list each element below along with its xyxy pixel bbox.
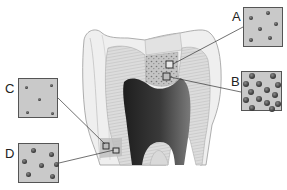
tubule-dot <box>249 38 253 42</box>
tubule-dot <box>38 98 41 101</box>
inset-A <box>243 7 283 47</box>
tubule-dot <box>275 101 281 107</box>
tubule-dot <box>249 73 255 79</box>
target-square-B <box>163 73 170 80</box>
tubule-dot <box>258 27 262 31</box>
tubule-dot <box>256 81 262 87</box>
tubule-dot <box>275 82 281 88</box>
tubule-dot <box>272 92 278 98</box>
tubule-dot <box>243 97 249 103</box>
label-D: D <box>5 147 14 160</box>
tubule-dot <box>26 172 31 177</box>
tubule-dot <box>49 152 54 157</box>
speckled-dentin-region <box>146 52 178 86</box>
label-A: A <box>232 10 241 23</box>
target-square-D <box>113 148 119 153</box>
tubule-dot <box>243 81 249 87</box>
tubule-dot <box>249 105 255 111</box>
label-C: C <box>5 82 14 95</box>
tubule-dot <box>50 174 55 179</box>
inset-D <box>18 143 59 183</box>
tubule-dot <box>264 100 270 106</box>
tubule-dot <box>22 159 27 164</box>
tubule-dot <box>274 22 278 26</box>
target-square-C <box>103 143 109 149</box>
tubule-dot <box>248 89 254 95</box>
tubule-dot <box>266 11 270 15</box>
tubule-dot <box>26 111 29 114</box>
tubule-dot <box>256 96 262 102</box>
label-B: B <box>231 75 240 88</box>
tubule-dot <box>51 112 54 115</box>
tubule-dot <box>31 148 36 153</box>
tubule-dot <box>264 87 270 93</box>
tubule-dot <box>270 73 276 79</box>
tubule-dot <box>39 163 44 168</box>
tubule-dot <box>54 162 59 167</box>
tubule-dot <box>25 86 28 89</box>
target-square-A <box>166 61 173 68</box>
tubule-dot <box>268 36 272 40</box>
tubule-dot <box>249 16 253 20</box>
tubule-dot <box>269 106 275 112</box>
tubule-dot <box>50 84 53 87</box>
inset-B <box>241 71 282 111</box>
inset-C <box>18 78 58 118</box>
